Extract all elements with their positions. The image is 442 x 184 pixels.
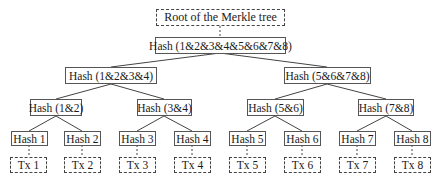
hash-12-node: Hash (1&2)	[30, 99, 82, 116]
tx-8-label: Tx 8	[402, 159, 423, 171]
tx-2-node: Tx 2	[64, 157, 101, 173]
top-hash-node: Hash (1&2&3&4&5&6&7&8)	[155, 37, 286, 54]
merkle-root-node: Root of the Merkle tree	[156, 9, 285, 26]
tx-6-node: Tx 6	[284, 157, 321, 173]
hash-56-node: Hash (5&6)	[247, 99, 304, 116]
tx-6-label: Tx 6	[292, 159, 313, 171]
hash-2-label: Hash 2	[66, 133, 98, 145]
top-hash-label: Hash (1&2&3&4&5&6&7&8)	[149, 40, 292, 52]
hash-1-label: Hash 1	[13, 133, 45, 145]
tx-7-label: Tx 7	[347, 159, 368, 171]
hash-78-label: Hash (7&8)	[359, 102, 414, 114]
hash-5678-node: Hash (5&6&7&8)	[284, 67, 371, 84]
hash-4-node: Hash 4	[174, 131, 211, 146]
tx-7-node: Tx 7	[339, 157, 376, 173]
hash-78-node: Hash (7&8)	[358, 99, 414, 116]
hash-6-label: Hash 6	[286, 133, 318, 145]
tx-4-label: Tx 4	[182, 159, 203, 171]
hash-56-label: Hash (5&6)	[248, 102, 303, 114]
hash-8-node: Hash 8	[394, 131, 431, 146]
hash-12-label: Hash (1&2)	[29, 102, 84, 114]
hash-5-label: Hash 5	[231, 133, 263, 145]
tx-3-node: Tx 3	[119, 157, 156, 173]
hash-1234-label: Hash (1&2&3&4)	[69, 70, 153, 82]
hash-4-label: Hash 4	[176, 133, 208, 145]
tx-8-node: Tx 8	[394, 157, 431, 173]
hash-8-label: Hash 8	[396, 133, 428, 145]
tx-5-node: Tx 5	[229, 157, 266, 173]
tx-3-label: Tx 3	[127, 159, 148, 171]
hash-7-label: Hash 7	[341, 133, 373, 145]
tx-5-label: Tx 5	[237, 159, 258, 171]
hash-5-node: Hash 5	[229, 131, 266, 146]
tx-1-label: Tx 1	[18, 159, 39, 171]
hash-1234-node: Hash (1&2&3&4)	[65, 67, 157, 84]
hash-7-node: Hash 7	[339, 131, 376, 146]
hash-34-node: Hash (3&4)	[137, 99, 192, 116]
hash-3-label: Hash 3	[121, 133, 153, 145]
hash-5678-label: Hash (5&6&7&8)	[285, 70, 369, 82]
hash-6-node: Hash 6	[284, 131, 321, 146]
hash-3-node: Hash 3	[119, 131, 156, 146]
hash-1-node: Hash 1	[11, 131, 48, 146]
tx-1-node: Tx 1	[10, 157, 47, 173]
hash-2-node: Hash 2	[64, 131, 101, 146]
merkle-root-label: Root of the Merkle tree	[164, 10, 277, 25]
tx-4-node: Tx 4	[174, 157, 211, 173]
merkle-tree-diagram: Root of the Merkle tree Hash (1&2&3&4&5&…	[0, 0, 442, 184]
tx-2-label: Tx 2	[72, 159, 93, 171]
hash-34-label: Hash (3&4)	[137, 102, 192, 114]
